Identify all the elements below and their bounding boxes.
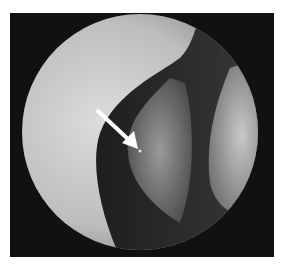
endoscopic-view [10, 13, 274, 257]
image-frame [10, 13, 274, 257]
target-spot [139, 150, 142, 153]
circular-scope-field [10, 13, 274, 257]
